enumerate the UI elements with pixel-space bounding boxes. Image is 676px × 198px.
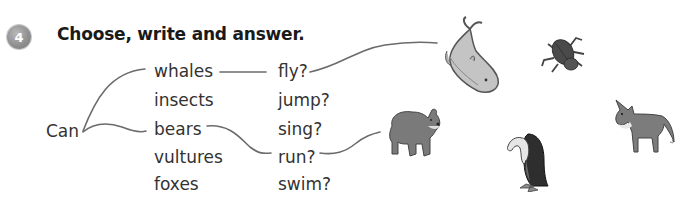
line-can-bears xyxy=(83,124,146,132)
beetle-icon xyxy=(540,32,590,78)
vulture-icon xyxy=(500,130,552,192)
verb-word: swim? xyxy=(278,174,331,194)
subject-word: vultures xyxy=(154,147,223,167)
fox-icon xyxy=(612,96,676,158)
subject-word: whales xyxy=(154,61,213,81)
verb-word: jump? xyxy=(278,90,330,110)
sentence-start-word: Can xyxy=(46,121,79,141)
connector-lines xyxy=(0,0,676,198)
line-fly-whale xyxy=(310,42,437,72)
verb-word: sing? xyxy=(278,119,322,139)
line-can-whales xyxy=(83,69,145,131)
bear-icon xyxy=(386,104,444,160)
subject-word: foxes xyxy=(154,174,199,194)
verb-word: run? xyxy=(278,147,316,167)
subject-word: bears xyxy=(154,119,202,139)
verb-word: fly? xyxy=(278,61,308,81)
whale-icon xyxy=(442,15,502,97)
subject-word: insects xyxy=(154,90,214,110)
line-run-bear xyxy=(320,132,380,154)
